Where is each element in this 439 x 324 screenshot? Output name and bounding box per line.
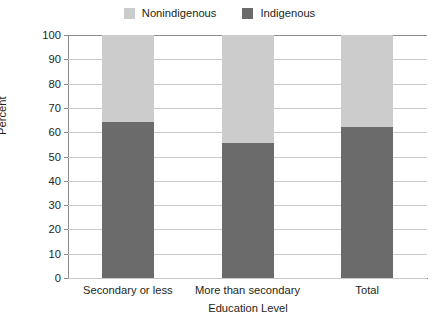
y-axis-tick-label: 60 (49, 127, 61, 138)
y-axis-tick-label: 70 (49, 103, 61, 114)
bar-stack (102, 35, 154, 278)
bar-segment-indigenous (102, 122, 154, 278)
bar-segment-nonindigenous (222, 35, 274, 143)
plot-area: 1009080706050403020100 (68, 35, 427, 278)
legend-label-nonindigenous: Nonindigenous (142, 8, 217, 19)
bar-segment-indigenous (341, 127, 393, 278)
y-axis-tick-label: 10 (49, 249, 61, 260)
bar-segment-indigenous (222, 143, 274, 278)
legend-item-nonindigenous: Nonindigenous (124, 8, 217, 19)
tick-mark (64, 229, 68, 230)
tick-mark (64, 205, 68, 206)
y-axis-tick-label: 0 (55, 273, 61, 284)
tick-mark (64, 181, 68, 182)
tick-mark (64, 132, 68, 133)
chart-legend: Nonindigenous Indigenous (0, 8, 439, 19)
bar-segment-nonindigenous (341, 35, 393, 127)
legend-item-indigenous: Indigenous (242, 8, 315, 19)
tick-mark (64, 254, 68, 255)
legend-swatch-indigenous (242, 8, 253, 19)
x-axis-category-label: More than secondary (195, 284, 300, 296)
bar-segment-nonindigenous (102, 35, 154, 122)
bar-stack (341, 35, 393, 278)
y-axis-tick-label: 40 (49, 176, 61, 187)
y-axis-tick-label: 90 (49, 54, 61, 65)
tick-mark (64, 84, 68, 85)
y-axis-title: Percent (0, 96, 8, 135)
y-axis-tick-label: 50 (49, 152, 61, 163)
y-axis-tick-label: 20 (49, 224, 61, 235)
x-axis-category-label: Total (355, 284, 379, 296)
tick-mark (64, 157, 68, 158)
stacked-bar-chart: Nonindigenous Indigenous 100908070605040… (0, 0, 439, 324)
tick-mark (64, 278, 68, 279)
y-axis-tick-label: 80 (49, 79, 61, 90)
tick-mark (64, 35, 68, 36)
x-axis-title: Education Level (68, 302, 428, 314)
legend-swatch-nonindigenous (124, 8, 135, 19)
x-axis-category-label: Secondary or less (83, 284, 173, 296)
tick-mark (64, 59, 68, 60)
y-axis-tick-label: 100 (42, 30, 61, 41)
legend-label-indigenous: Indigenous (260, 8, 315, 19)
y-axis-tick-label: 30 (49, 200, 61, 211)
gridline (68, 278, 427, 279)
bar-stack (222, 35, 274, 278)
tick-mark (64, 108, 68, 109)
